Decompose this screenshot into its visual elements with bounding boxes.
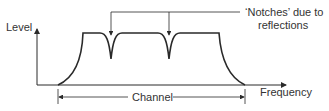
notch-annotation-line xyxy=(111,12,240,35)
annotation-line-2: reflections xyxy=(258,19,308,31)
y-axis-label: Level xyxy=(6,21,32,33)
channel-label: Channel xyxy=(132,91,173,103)
spectrum-curve xyxy=(58,33,245,85)
annotation-line-1: ‘Notches’ due to xyxy=(245,6,323,18)
x-axis-label: Frequency xyxy=(260,86,312,98)
